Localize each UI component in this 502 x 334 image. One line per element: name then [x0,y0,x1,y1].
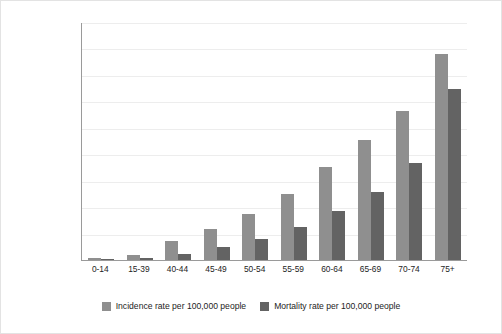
bar-incidence [435,54,448,260]
x-axis-tick-label: 40-44 [158,264,197,274]
bar-group [313,23,352,260]
legend-label: Mortality rate per 100,000 people [274,301,400,311]
chart-container: Cancer incidence and mortality rates per… [0,0,502,334]
x-axis-tick-label: 50-54 [235,264,274,274]
bar-mortality [332,211,345,260]
x-axis-tick-label: 75+ [428,264,467,274]
bar-group [159,23,198,260]
bar-mortality [294,227,307,260]
x-axis-tick-labels: 0-1415-3940-4445-4950-5455-5960-6465-697… [81,264,467,274]
bar-incidence [165,241,178,260]
legend-label: Incidence rate per 100,000 people [116,301,246,311]
bar-incidence [204,229,217,260]
x-axis-tick-label: 15-39 [120,264,159,274]
bar-mortality [255,239,268,260]
legend-swatch-icon [102,302,111,311]
x-axis-tick-label: 65-69 [351,264,390,274]
bar-incidence [127,255,140,260]
bar-group [390,23,429,260]
bar-group [198,23,237,260]
bar-mortality [448,89,461,260]
legend-item[interactable]: Mortality rate per 100,000 people [260,301,400,311]
x-axis-tick-label: 0-14 [81,264,120,274]
bar-incidence [281,194,294,260]
bar-incidence [358,140,371,260]
x-axis-tick-label: 60-64 [313,264,352,274]
bar-mortality [409,163,422,260]
bar-group [121,23,160,260]
bar-group [236,23,275,260]
bar-group [352,23,391,260]
bar-mortality [217,247,230,260]
bar-incidence [242,214,255,260]
bar-group [82,23,121,260]
legend-swatch-icon [260,302,269,311]
bar-incidence [396,111,409,260]
x-axis-tick-label: 55-59 [274,264,313,274]
chart-legend: Incidence rate per 100,000 peopleMortali… [1,301,501,311]
bar-group [275,23,314,260]
plot-area: 020040060080010001200140016001800 [81,23,467,261]
bar-mortality [178,254,191,260]
bar-mortality [140,258,153,260]
bar-mortality [371,192,384,260]
bar-group [429,23,468,260]
bar-mortality [101,259,114,260]
bar-incidence [88,258,101,260]
x-axis-tick-label: 45-49 [197,264,236,274]
x-axis-tick-label: 70-74 [390,264,429,274]
bar-groups [82,23,467,260]
legend-item[interactable]: Incidence rate per 100,000 people [102,301,246,311]
bar-incidence [319,167,332,260]
